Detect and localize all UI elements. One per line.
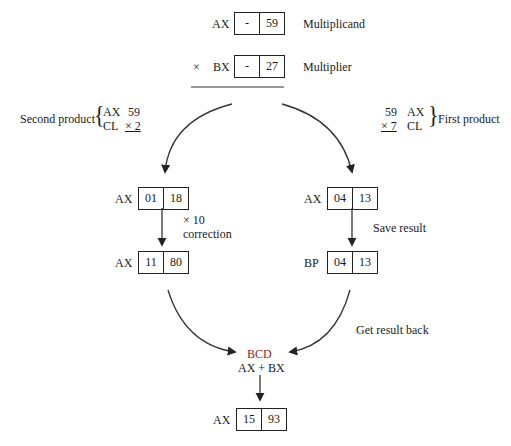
right-reg2-low-byte: 13	[352, 252, 377, 273]
result-reg-label: AX	[213, 414, 230, 426]
left-reg2-label: AX	[115, 257, 132, 269]
bcd-operation: AX + BX	[238, 362, 285, 374]
arc-right-to-bcd	[290, 290, 350, 352]
left-reg1-low-byte: 18	[163, 188, 188, 209]
multiplicand-label: Multiplicand	[303, 18, 365, 30]
arc-to-first-product	[282, 104, 352, 172]
right-reg1-low-byte: 13	[352, 188, 377, 209]
result-high-byte: 15	[237, 409, 261, 430]
save-result-step: Save result	[373, 222, 426, 234]
arc-left-to-bcd	[168, 290, 235, 352]
first-product-reg1: AX	[407, 106, 424, 118]
right-reg2-high-byte: 04	[328, 252, 352, 273]
left-reg2-high-byte: 11	[139, 252, 163, 273]
right-register-2: 04 13	[327, 251, 378, 274]
right-reg1-high-byte: 04	[328, 188, 352, 209]
right-reg2-label: BP	[304, 257, 319, 269]
multiplier-register: - 27	[234, 55, 285, 78]
left-reg2-low-byte: 80	[163, 252, 188, 273]
left-reg1-high-byte: 01	[139, 188, 163, 209]
right-register-1: 04 13	[327, 187, 378, 210]
multiplicand-register-label: AX	[212, 18, 229, 30]
multiplicand-register: - 59	[234, 12, 285, 35]
second-product-val1: 59	[128, 106, 140, 118]
left-reg1-label: AX	[115, 193, 132, 205]
left-register-1: 01 18	[138, 187, 189, 210]
first-product-val1: 59	[385, 106, 397, 118]
multiplier-label: Multiplier	[303, 61, 352, 73]
bcd-label: BCD	[247, 348, 272, 360]
result-register: 15 93	[236, 408, 287, 431]
multiplicand-low-byte: 59	[259, 13, 284, 34]
first-product-label: First product	[438, 113, 500, 125]
correction-step-line1: × 10	[183, 214, 205, 226]
left-register-2: 11 80	[138, 251, 189, 274]
result-low-byte: 93	[261, 409, 286, 430]
correction-step-line2: correction	[183, 228, 232, 240]
second-product-reg1: AX	[103, 106, 120, 118]
first-product-reg2: CL	[407, 120, 422, 132]
multiplier-register-label: BX	[213, 61, 230, 73]
first-product-val2: × 7	[381, 120, 397, 132]
multiplicand-high-byte: -	[235, 13, 259, 34]
multiply-operator: ×	[193, 61, 200, 73]
second-product-reg2: CL	[103, 120, 118, 132]
get-result-back-step: Get result back	[356, 324, 429, 336]
multiplier-high-byte: -	[235, 56, 259, 77]
arc-to-second-product	[165, 104, 232, 172]
second-product-val2: × 2	[125, 120, 141, 132]
second-product-label: Second product	[20, 113, 95, 125]
right-brace-icon: }	[428, 102, 439, 127]
right-reg1-label: AX	[304, 193, 321, 205]
multiplier-low-byte: 27	[259, 56, 284, 77]
